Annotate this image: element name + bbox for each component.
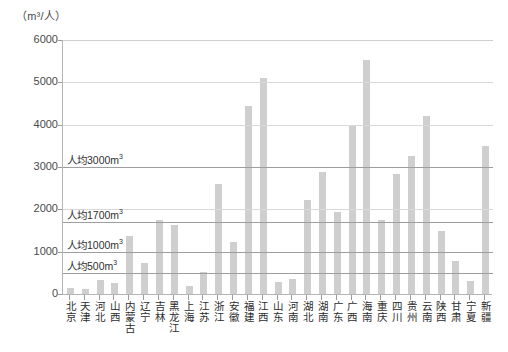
x-axis-label-河南: 河南 [286, 301, 298, 351]
y-axis-tick-label: 4000 [18, 119, 58, 130]
reference-line-1700 [63, 222, 493, 223]
x-axis-tick-mark [128, 295, 129, 300]
x-axis-label-cell: 甘肃 [448, 301, 463, 351]
x-axis-label-广东: 广东 [331, 301, 343, 351]
x-axis-tick-mark [306, 295, 307, 300]
y-axis-tick-labels: 6000500040003000200010000 [14, 40, 58, 295]
x-axis-label-cell: 湖北 [299, 301, 314, 351]
x-axis-label-吉林: 吉林 [153, 301, 165, 351]
x-axis-tick-cell [225, 295, 240, 300]
gridline [63, 209, 493, 210]
x-axis-tick-mark [291, 295, 292, 300]
bar-云南 [423, 116, 430, 294]
gridline [63, 82, 493, 83]
x-axis-label-cell: 重庆 [373, 301, 388, 351]
x-axis-label-cell: 云南 [418, 301, 433, 351]
x-axis-labels: 北京天津河北山西内蒙古辽宁吉林黑龙江上海江苏浙江安徽福建江西山东河南湖北湖南广东… [62, 301, 492, 351]
bar-四川 [393, 174, 400, 294]
x-axis-label-cell: 江苏 [195, 301, 210, 351]
x-axis-label-宁夏: 宁夏 [464, 301, 476, 351]
x-axis-label-cell: 安徽 [225, 301, 240, 351]
x-axis-tick-mark [188, 295, 189, 300]
x-axis-tick-cell [299, 295, 314, 300]
y-axis-tick-mark [58, 40, 62, 41]
x-axis-tick-mark [113, 295, 114, 300]
x-axis-label-湖北: 湖北 [301, 301, 313, 351]
x-axis-label-云南: 云南 [420, 301, 432, 351]
x-axis-tick-mark [425, 295, 426, 300]
x-axis-tick-cell [210, 295, 225, 300]
x-axis-tick-mark [321, 295, 322, 300]
x-axis-label-安徽: 安徽 [227, 301, 239, 351]
x-axis-tick-cell [166, 295, 181, 300]
x-axis-tick-mark [410, 295, 411, 300]
x-axis-tick-mark [69, 295, 70, 300]
x-axis-label-海南: 海南 [360, 301, 372, 351]
bar-吉林 [156, 220, 163, 294]
y-axis-unit-caption: （m³/人） [16, 7, 66, 23]
y-axis-tick-label: 3000 [18, 161, 58, 172]
y-axis-tick-mark [58, 294, 62, 295]
y-axis-tick-label: 6000 [18, 34, 58, 45]
x-axis-tick-cell [240, 295, 255, 300]
y-axis-tick-label: 5000 [18, 76, 58, 87]
x-axis-label-福建: 福建 [242, 301, 254, 351]
reference-line-1000 [63, 252, 493, 253]
reference-line-label-500: 人均500m3 [67, 259, 117, 271]
bar-湖北 [304, 200, 311, 294]
x-axis-tick-mark [454, 295, 455, 300]
x-axis-label-黑龙江: 黑龙江 [167, 301, 179, 351]
x-axis-label-重庆: 重庆 [375, 301, 387, 351]
x-axis-label-cell: 四川 [388, 301, 403, 351]
reference-line-3000 [63, 167, 493, 168]
x-axis-tick-cell [388, 295, 403, 300]
x-axis-label-cell: 河北 [92, 301, 107, 351]
x-axis-tick-cell [433, 295, 448, 300]
bar-安徽 [230, 242, 237, 294]
x-axis-tick-mark [395, 295, 396, 300]
x-axis-label-cell: 江西 [255, 301, 270, 351]
x-axis-label-cell: 山东 [270, 301, 285, 351]
x-axis-tick-mark [202, 295, 203, 300]
x-axis-tick-cell [121, 295, 136, 300]
x-axis-label-cell: 浙江 [210, 301, 225, 351]
y-axis-tick-mark [58, 82, 62, 83]
x-axis-label-cell: 内蒙古 [121, 301, 136, 351]
x-axis-tick-mark [173, 295, 174, 300]
x-axis-label-cell: 新疆 [477, 301, 492, 351]
bar-山东 [275, 282, 282, 294]
x-axis-label-cell: 广西 [344, 301, 359, 351]
x-axis-label-贵州: 贵州 [405, 301, 417, 351]
x-axis-tick-cell [77, 295, 92, 300]
x-axis-tick-mark [365, 295, 366, 300]
x-axis-tick-mark [262, 295, 263, 300]
x-axis-label-天津: 天津 [78, 301, 90, 351]
x-axis-label-cell: 吉林 [151, 301, 166, 351]
bar-内蒙古 [126, 236, 133, 294]
x-axis-tick-mark [351, 295, 352, 300]
x-axis-label-新疆: 新疆 [479, 301, 491, 351]
reference-line-label-1700: 人均1700m3 [67, 208, 123, 220]
x-axis-tick-mark [84, 295, 85, 300]
plot-area: 人均3000m3人均1700m3人均1000m3人均500m3 [62, 40, 492, 295]
bar-北京 [67, 288, 74, 294]
x-axis-tick-mark [336, 295, 337, 300]
bar-新疆 [482, 146, 489, 294]
x-axis-tick-cell [329, 295, 344, 300]
bar-广东 [334, 212, 341, 294]
x-axis-tick-cell [373, 295, 388, 300]
x-axis-label-cell: 河南 [284, 301, 299, 351]
x-axis-label-cell: 广东 [329, 301, 344, 351]
x-axis-label-陕西: 陕西 [434, 301, 446, 351]
x-axis-label-山西: 山西 [108, 301, 120, 351]
x-axis-tick-cell [136, 295, 151, 300]
x-axis-label-cell: 湖南 [314, 301, 329, 351]
y-axis-tick-label: 0 [18, 288, 58, 299]
x-axis-label-四川: 四川 [390, 301, 402, 351]
x-axis-ticks [62, 295, 492, 300]
reference-line-label-3000: 人均3000m3 [67, 153, 123, 165]
x-axis-tick-cell [195, 295, 210, 300]
x-axis-label-山东: 山东 [271, 301, 283, 351]
y-axis-tick-label: 2000 [18, 203, 58, 214]
bar-海南 [363, 60, 370, 294]
